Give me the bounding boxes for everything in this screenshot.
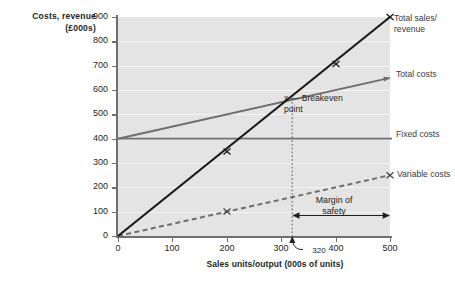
series-label-total-sales-line2: revenue (394, 24, 455, 35)
margin-of-safety-line1: Margin of (292, 195, 376, 206)
breakeven-pointer-arrow (289, 236, 295, 243)
series-label-variable-costs: Variable costs (397, 169, 455, 180)
marker-total-sales-500 (387, 14, 394, 20)
series-label-total-sales-line1: Total sales/ (394, 13, 455, 24)
series-layer (0, 0, 455, 282)
marker-variable-costs-500 (387, 172, 394, 178)
series-label-total-costs: Total costs (396, 69, 455, 80)
breakeven-annotation-line2: point (284, 104, 380, 115)
margin-of-safety-arrow-right (383, 212, 390, 218)
margin-of-safety-annotation: Margin of safety (292, 195, 376, 217)
breakeven-annotation: x — Breakeven point (284, 93, 380, 115)
margin-of-safety-line2: safety (292, 206, 376, 217)
breakeven-x-value-label: 320 (306, 246, 332, 255)
breakeven-annotation-line1: x — Breakeven (284, 93, 380, 104)
series-label-fixed-costs: Fixed costs (396, 129, 455, 140)
x-axis-title: Sales units/output (000s of units) (130, 259, 420, 269)
series-label-total-sales: Total sales/ revenue (394, 13, 455, 34)
breakeven-chart: Costs, revenue (£000s) 900 800 700 600 5… (0, 0, 455, 282)
